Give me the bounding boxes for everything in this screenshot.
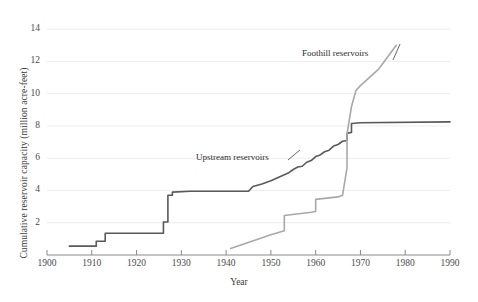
x-tick-label: 1970 <box>340 258 380 268</box>
x-tick-label: 1990 <box>430 258 470 268</box>
x-tick-label: 1960 <box>296 258 336 268</box>
y-tick-label: 10 <box>14 88 40 98</box>
annotation-foothill-reservoirs: Foothill reservoirs <box>302 48 368 58</box>
y-tick-label: 14 <box>14 23 40 33</box>
y-tick-label: 2 <box>14 217 40 227</box>
x-tick-label: 1930 <box>161 258 201 268</box>
x-tick-label: 1920 <box>117 258 157 268</box>
reservoir-capacity-chart: Cumulative reservoir capacity (million a… <box>0 0 478 302</box>
y-tick-label: 6 <box>14 152 40 162</box>
x-tick-label: 1940 <box>206 258 246 268</box>
y-tick-label: 8 <box>14 120 40 130</box>
annotation-upstream-reservoirs: Upstream reservoirs <box>196 152 269 162</box>
axis-lines <box>47 250 450 255</box>
plot-area <box>0 0 478 302</box>
x-tick-label: 1950 <box>251 258 291 268</box>
x-tick-label: 1910 <box>72 258 112 268</box>
grid-lines <box>47 29 450 223</box>
y-tick-label: 12 <box>14 55 40 65</box>
x-tick-label: 1900 <box>27 258 67 268</box>
x-tick-label: 1980 <box>385 258 425 268</box>
data-series-group <box>69 45 450 248</box>
y-tick-label: 4 <box>14 184 40 194</box>
x-axis-title: Year <box>0 277 478 287</box>
